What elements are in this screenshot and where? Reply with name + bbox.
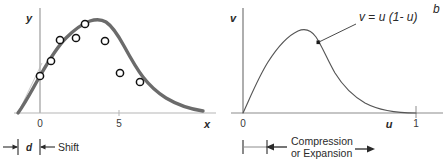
left-arrow-icon	[266, 143, 287, 150]
left-arrow-icon	[40, 145, 55, 150]
equation-base: u (1- u)	[379, 10, 418, 24]
right-arrow-icon	[3, 145, 18, 150]
equation-exponent: b	[433, 2, 440, 16]
data-point-marker	[81, 20, 88, 27]
figure-root: y x 0 5 d	[0, 0, 445, 165]
compression-bracket: Compression or Expansion	[243, 135, 375, 159]
right-arrow-icon	[355, 145, 375, 152]
equation-leader-line	[319, 24, 356, 42]
left-y-axis-label: y	[25, 12, 33, 24]
data-point-marker	[36, 72, 43, 79]
right-beta-curve	[243, 30, 416, 113]
shift-dimension-label: d	[26, 142, 33, 153]
right-utick-1: 1	[413, 118, 419, 129]
equation-equals: =	[368, 10, 375, 24]
shift-annotation-label: Shift	[58, 141, 79, 153]
data-point-marker	[101, 37, 108, 44]
equation-callout: v = u (1- u) b	[359, 2, 440, 24]
shift-bracket: d Shift	[3, 139, 79, 155]
compression-label-line2: or Expansion	[291, 147, 352, 159]
left-xtick-0: 0	[37, 118, 43, 129]
right-utick-0: 0	[240, 118, 246, 129]
compression-label-line1: Compression	[291, 135, 353, 147]
data-point-marker	[116, 69, 123, 76]
data-point-marker	[56, 36, 63, 43]
left-fitted-curve	[18, 20, 203, 113]
data-point-marker	[136, 78, 143, 85]
data-point-marker	[72, 34, 79, 41]
right-u-axis-label: u	[386, 118, 393, 130]
left-x-axis-label: x	[203, 118, 211, 130]
right-v-axis-label: v	[230, 12, 237, 24]
right-panel: v u 0 1 v = u (1- u) b	[230, 2, 443, 159]
data-point-marker	[47, 57, 54, 64]
left-xtick-5: 5	[116, 118, 122, 129]
left-panel: y x 0 5 d	[3, 8, 216, 155]
svg-text:v = u (1- u): v = u (1- u)	[359, 10, 417, 24]
callout-anchor-dot	[317, 41, 321, 45]
